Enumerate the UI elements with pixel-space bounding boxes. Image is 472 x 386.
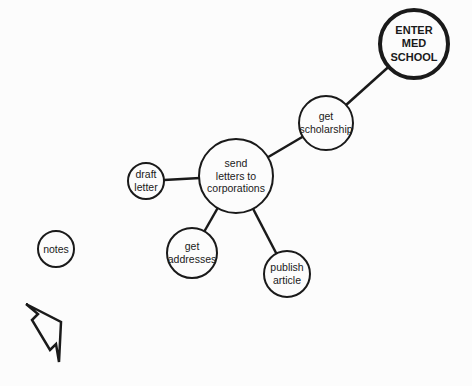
node-get-addresses[interactable]: get addresses [166, 227, 218, 279]
node-send-letters[interactable]: send letters to corporations [198, 138, 274, 214]
node-notes[interactable]: notes [37, 230, 75, 268]
node-label: get scholarship [299, 110, 352, 135]
node-get-scholarship[interactable]: get scholarship [298, 95, 354, 151]
node-label: ENTER MED SCHOOL [390, 24, 437, 64]
node-label: publish article [270, 261, 303, 286]
node-label: get addresses [168, 240, 216, 265]
node-label: notes [43, 243, 69, 256]
node-draft-letter[interactable]: draft letter [127, 162, 165, 200]
arrow-cursor-icon [26, 304, 61, 362]
node-enter-med-school[interactable]: ENTER MED SCHOOL [378, 8, 450, 80]
node-publish-article[interactable]: publish article [263, 250, 311, 298]
node-label: send letters to corporations [207, 157, 265, 195]
node-label: draft letter [134, 168, 157, 193]
